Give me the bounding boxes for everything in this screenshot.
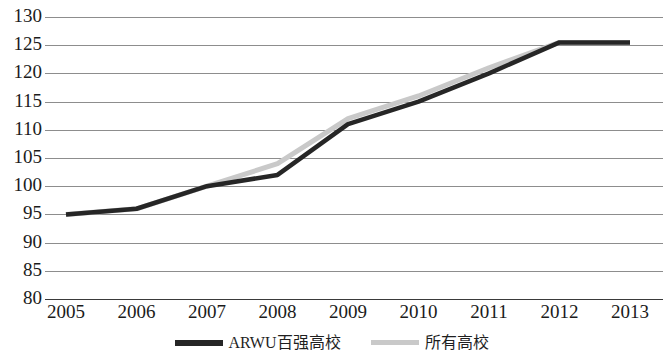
series-line-all-universities (66, 42, 630, 214)
x-axis-tick-2008: 2008 (243, 301, 313, 323)
x-axis-tick-labels: 200520062007200820092010201120122013 (0, 301, 663, 329)
legend-label-1: ARWU百强高校 (229, 334, 341, 352)
x-axis-tick-2005: 2005 (31, 301, 101, 323)
x-axis-tick-2011: 2011 (454, 301, 524, 323)
chart-legend: ARWU百强高校所有高校 (0, 330, 663, 355)
x-axis-tick-2010: 2010 (384, 301, 454, 323)
chart-figure: 13012512011511010510095908580 2005200620… (0, 0, 663, 355)
x-axis-tick-2009: 2009 (313, 301, 383, 323)
legend-swatch-2 (371, 340, 419, 345)
legend-label-2: 所有高校 (425, 334, 489, 352)
series-lines (0, 0, 663, 310)
x-axis-tick-2013: 2013 (595, 301, 663, 323)
plot-area: 13012512011511010510095908580 (0, 0, 663, 310)
legend-swatch-1 (175, 340, 223, 346)
x-axis-tick-2012: 2012 (525, 301, 595, 323)
series-line-arwu-top100 (66, 42, 630, 214)
legend-item-1: ARWU百强高校 (175, 334, 341, 352)
x-axis-tick-2007: 2007 (172, 301, 242, 323)
x-axis-tick-2006: 2006 (102, 301, 172, 323)
legend-item-2: 所有高校 (371, 334, 489, 352)
